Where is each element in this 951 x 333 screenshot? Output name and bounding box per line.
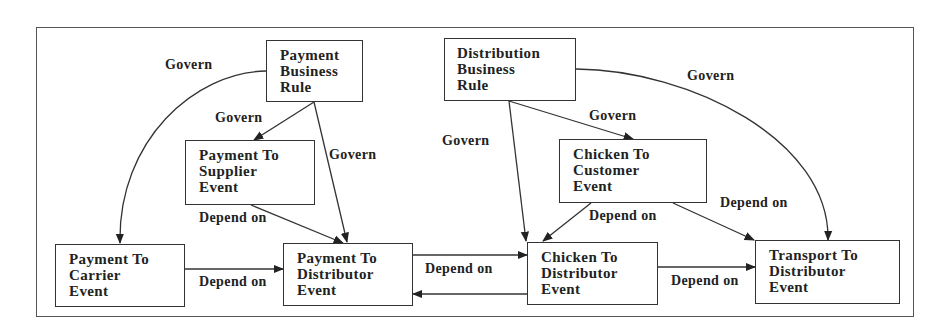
node-transport-to-distributor-event: Transport To Distributor Event xyxy=(755,240,900,304)
node-line: Event xyxy=(573,178,706,194)
node-line: Rule xyxy=(457,77,575,93)
edge-govern-dbr-chickdist xyxy=(509,101,526,241)
node-line: Payment To xyxy=(199,147,314,163)
edge-label-depend-on: Depend on xyxy=(589,208,657,224)
edge-label-govern: Govern xyxy=(442,133,490,149)
node-line: Payment To xyxy=(69,251,184,267)
node-line: Business xyxy=(280,63,362,79)
node-line: Event xyxy=(69,283,184,299)
node-line: Distributor xyxy=(541,265,657,281)
edge-label-depend-on: Depend on xyxy=(720,195,788,211)
edge-label-depend-on: Depend on xyxy=(425,261,493,277)
edge-label-depend-on: Depend on xyxy=(671,273,739,289)
edge-label-govern: Govern xyxy=(687,68,735,84)
node-line: Transport To xyxy=(769,247,899,263)
node-line: Distributor xyxy=(297,266,412,282)
node-payment-to-supplier-event: Payment To Supplier Event xyxy=(185,140,315,205)
node-line: Event xyxy=(297,282,412,298)
node-line: Business xyxy=(457,61,575,77)
edge-govern-pbr-distributor xyxy=(314,102,347,242)
node-payment-business-rule: Payment Business Rule xyxy=(266,40,363,102)
node-line: Customer xyxy=(573,162,706,178)
node-line: Rule xyxy=(280,79,362,95)
edge-label-govern: Govern xyxy=(589,108,637,124)
node-line: Payment xyxy=(280,47,362,63)
edge-govern-pbr-supplier xyxy=(254,102,314,140)
edge-label-govern: Govern xyxy=(329,147,377,163)
node-line: Distributor xyxy=(769,263,899,279)
node-payment-to-carrier-event: Payment To Carrier Event xyxy=(55,244,185,307)
node-line: Event xyxy=(541,281,657,297)
edge-label-govern: Govern xyxy=(215,110,263,126)
edge-depend-customer-chickdist xyxy=(543,203,591,241)
diagram-canvas: Payment Business Rule Distribution Busin… xyxy=(0,0,951,333)
edge-label-govern: Govern xyxy=(165,57,213,73)
node-distribution-business-rule: Distribution Business Rule xyxy=(444,38,576,101)
node-line: Event xyxy=(769,279,899,295)
node-line: Supplier xyxy=(199,163,314,179)
node-line: Distribution xyxy=(457,45,575,61)
node-chicken-to-customer-event: Chicken To Customer Event xyxy=(559,139,707,203)
edge-label-depend-on: Depend on xyxy=(199,274,267,290)
node-line: Event xyxy=(199,179,314,195)
node-chicken-to-distributor-event: Chicken To Distributor Event xyxy=(527,242,658,305)
node-line: Payment To xyxy=(297,250,412,266)
edge-label-depend-on: Depend on xyxy=(199,210,267,226)
node-line: Chicken To xyxy=(541,249,657,265)
node-line: Carrier xyxy=(69,267,184,283)
node-payment-to-distributor-event: Payment To Distributor Event xyxy=(283,243,413,306)
node-line: Chicken To xyxy=(573,146,706,162)
